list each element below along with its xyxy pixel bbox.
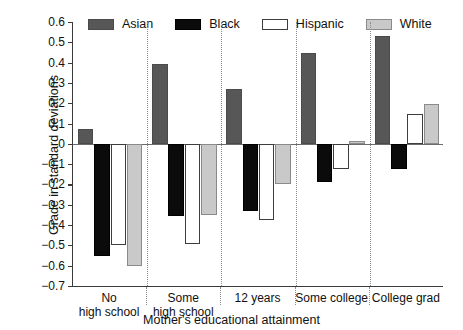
- y-axis-tick: [68, 42, 73, 43]
- bar-white-college-grad: [424, 104, 440, 144]
- x-axis-category-label: Somehigh school: [146, 291, 220, 319]
- y-axis-tick: [68, 22, 73, 23]
- bar-black-12-years: [243, 144, 259, 211]
- y-axis-tick-label: 0.5: [48, 35, 65, 49]
- group-separator: [296, 22, 297, 286]
- x-axis-category-line: 12 years: [220, 291, 294, 305]
- y-axis-tick: [68, 83, 73, 84]
- x-axis-line: [72, 286, 443, 287]
- x-axis-category-line: high school: [72, 305, 146, 319]
- bar-white-12-years: [275, 144, 291, 185]
- x-axis-category-line: College grad: [369, 291, 443, 305]
- y-axis-tick: [68, 124, 73, 125]
- bar-white-no-high-school: [127, 144, 143, 266]
- y-axis-tick: [68, 245, 73, 246]
- y-axis-tick-label: −0.4: [41, 218, 65, 232]
- y-axis-tick-label: −0.3: [41, 198, 65, 212]
- bar-asian-some-high-school: [152, 64, 168, 144]
- bar-black-some-high-school: [168, 144, 184, 216]
- bar-asian-no-high-school: [78, 129, 94, 144]
- x-axis-category-line: Some college: [295, 291, 369, 305]
- bar-hispanic-no-high-school: [111, 144, 127, 246]
- group-separator: [221, 22, 222, 286]
- y-axis-tick-label: −0.6: [41, 259, 65, 273]
- bar-asian-some-college: [301, 53, 317, 143]
- bar-hispanic-some-college: [333, 144, 349, 169]
- y-axis-tick-label: −0.1: [41, 157, 65, 171]
- y-axis-tick: [68, 266, 73, 267]
- x-axis-category-line: Some: [146, 291, 220, 305]
- bar-white-some-college: [349, 141, 365, 144]
- x-axis-category-line: No: [72, 291, 146, 305]
- y-axis-tick-label: −0.7: [41, 279, 65, 293]
- x-axis-category-label: 12 years: [220, 291, 294, 305]
- y-axis-tick-label: −0.5: [41, 238, 65, 252]
- y-axis-tick-label: −0.2: [41, 177, 65, 191]
- y-axis-tick: [68, 63, 73, 64]
- y-axis-tick-label: 0.3: [48, 76, 65, 90]
- y-axis-tick: [68, 184, 73, 185]
- bar-black-no-high-school: [94, 144, 110, 256]
- bar-hispanic-some-high-school: [185, 144, 201, 245]
- y-axis-tick: [68, 144, 73, 145]
- bar-hispanic-12-years: [259, 144, 275, 220]
- x-axis-category-label: College grad: [369, 291, 443, 305]
- y-axis-tick: [68, 103, 73, 104]
- bar-hispanic-college-grad: [407, 114, 423, 143]
- y-axis-tick: [68, 225, 73, 226]
- bar-black-college-grad: [391, 144, 407, 169]
- group-separator: [370, 22, 371, 286]
- y-axis-tick: [68, 164, 73, 165]
- y-axis-tick-label: 0: [58, 137, 65, 151]
- y-axis-tick-label: 0.6: [48, 15, 65, 29]
- bar-black-some-college: [317, 144, 333, 183]
- x-axis-category-label: Nohigh school: [72, 291, 146, 319]
- y-axis-tick-label: 0.1: [48, 117, 65, 131]
- plot-area: 0.60.50.40.30.20.10−0.1−0.2−0.3−0.4−0.5−…: [72, 22, 443, 286]
- group-separator: [147, 22, 148, 286]
- chart-figure: Grade in standard deviations AsianBlackH…: [0, 0, 463, 330]
- bar-asian-college-grad: [375, 36, 391, 144]
- y-axis-tick-label: 0.4: [48, 56, 65, 70]
- y-axis-tick: [68, 205, 73, 206]
- x-axis-category-label: Some college: [295, 291, 369, 305]
- y-axis-tick-label: 0.2: [48, 96, 65, 110]
- x-axis-title: Mother's educational attainment: [0, 313, 463, 327]
- bar-white-some-high-school: [201, 144, 217, 215]
- bar-asian-12-years: [226, 89, 242, 144]
- x-axis-category-line: high school: [146, 305, 220, 319]
